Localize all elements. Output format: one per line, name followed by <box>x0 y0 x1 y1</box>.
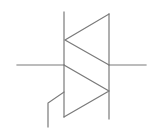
upper-diode-triangle <box>65 14 109 65</box>
gate-lead <box>48 92 64 127</box>
lower-diode-triangle <box>64 65 109 117</box>
triac-symbol <box>0 0 157 135</box>
